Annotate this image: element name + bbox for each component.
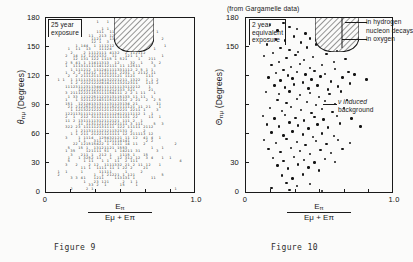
fig9-bin-count: 1	[164, 45, 166, 48]
fig10-data-point	[321, 64, 323, 66]
fig10-ytick-0: 0	[213, 187, 239, 196]
fig9-ytick-30: 30	[14, 158, 40, 167]
fig10-data-point	[288, 49, 290, 51]
fig10-data-point	[296, 141, 298, 143]
fig10-data-point	[341, 148, 343, 150]
fig9-bin-count: 1	[107, 181, 109, 184]
fig9-bin-count: 1	[151, 116, 153, 119]
fig9-bin-count: 2	[135, 137, 137, 140]
fig10-data-point	[324, 158, 326, 160]
fig10-y-subscript: πμ	[218, 111, 224, 119]
fig10-data-point	[284, 86, 286, 88]
fig9-bin-count: 1	[135, 143, 137, 146]
fig9-bin-count: 1	[169, 157, 171, 160]
fig10-data-point	[312, 56, 314, 58]
fig9-bin-count: 3	[161, 123, 163, 126]
fig9-bin-count: 2	[76, 164, 78, 167]
fig9-bin-count: 1	[154, 58, 156, 61]
fig10-data-point	[293, 156, 295, 158]
fig10-leader-oxygen	[342, 39, 367, 40]
fig9-bin-count: 2	[141, 171, 143, 174]
fig9-bin-count: 1	[161, 147, 163, 150]
fig9-bin-count: 1	[174, 188, 176, 191]
fig9-bin-count: 2	[117, 52, 119, 55]
fig9-bin-count: 2	[138, 79, 140, 82]
fig10-data-point	[318, 169, 320, 171]
fig9-bin-count: 3	[104, 35, 106, 38]
fig10-data-point	[322, 118, 324, 120]
fig10-data-point	[303, 119, 305, 121]
fig10-data-point	[353, 73, 355, 75]
fig10-data-point	[316, 84, 318, 86]
fig9-bin-count: 3	[70, 177, 72, 180]
fig9-x-numerator: Eπ	[88, 203, 152, 211]
fig10-data-point	[309, 183, 311, 185]
fig10-data-point	[276, 99, 278, 101]
fig9-bin-count: 1	[68, 96, 70, 99]
fig9-bin-count: 2	[135, 116, 137, 119]
fig9-bin-count: 2	[70, 126, 72, 129]
fig9-bin-count: 5	[73, 150, 75, 153]
fig10-callout-nucleon-decays: nucleon decays	[366, 27, 413, 35]
fig10-data-point	[313, 161, 315, 163]
fig10-data-point	[341, 76, 343, 78]
fig10-data-point	[333, 61, 335, 63]
fig9-bin-count: 1	[83, 167, 85, 170]
fig9-bin-count: 2	[143, 143, 145, 146]
fig10-ytick-30: 30	[213, 158, 239, 167]
fig10-data-point	[313, 70, 315, 72]
fig10-data-point	[318, 96, 320, 98]
fig10-data-point	[307, 166, 309, 168]
fig10-data-point	[321, 190, 323, 192]
fig10-data-point	[303, 159, 305, 161]
fig10-data-point	[313, 116, 315, 118]
fig9-bin-count: 2	[57, 174, 59, 177]
fig9-bin-count: 3	[156, 109, 158, 112]
fig10-leader-hydrogen	[345, 22, 367, 23]
fig9-bin-count: 1	[63, 79, 65, 82]
fig10-data-point	[293, 83, 295, 85]
fig10-data-point	[321, 108, 323, 110]
fig9-bin-count: 2	[151, 140, 153, 143]
fig10-data-point	[334, 68, 336, 70]
fig10-data-point	[316, 123, 318, 125]
fig10-data-point	[302, 81, 304, 83]
fig10-data-point	[302, 133, 304, 135]
fig9-bin-count: 5	[68, 160, 70, 163]
fig10-y-units: (Degrees)	[214, 69, 224, 109]
fig9-bin-count: 3	[112, 38, 114, 41]
fig10-x-numerator: Eπ	[287, 203, 351, 211]
fig9-bin-count: 1	[154, 92, 156, 95]
fig9-bin-count: 1	[156, 31, 158, 34]
fig10-data-point	[275, 38, 277, 40]
fig9-bin-count: 1	[154, 48, 156, 51]
fig10-data-point	[309, 92, 311, 94]
fig9-bin-count: 5	[81, 147, 83, 150]
fig10-data-point	[315, 104, 317, 106]
fig9-bin-count: 1	[138, 126, 140, 129]
fig9-bin-count: 1	[65, 65, 67, 68]
fig10-data-point	[282, 22, 284, 24]
fig9-y-symbol: θ	[16, 120, 26, 125]
fig10-data-point	[334, 161, 336, 163]
fig10-data-point	[310, 112, 312, 114]
fig9-bin-count: 1	[65, 150, 67, 153]
fig10-data-point	[287, 74, 289, 76]
fig10-data-point	[282, 69, 284, 71]
fig9-bin-count: 3	[154, 65, 156, 68]
figure-9-panel: 180 150 120 90 60 30 0 θπμ (Degrees) 0 1…	[0, 0, 205, 262]
fig9-bin-count: 2	[133, 164, 135, 167]
fig10-data-point	[309, 37, 311, 39]
fig10-data-point	[350, 117, 352, 119]
fig9-bin-count: 4	[151, 157, 153, 160]
figure-10-panel: (from Gargamelle data) 180 150 30 0 Θπμ …	[205, 0, 405, 262]
fig9-bin-count: 1	[125, 58, 127, 61]
fig9-caption: Figure 9	[54, 243, 96, 252]
fig9-bin-count: 2	[161, 38, 163, 41]
fig9-ytick-180: 180	[14, 13, 40, 22]
fig10-leader-background	[323, 104, 337, 105]
fig10-data-point	[296, 28, 298, 30]
fig9-digit-cloud: 1111111111112131211211321213114411112121…	[45, 17, 195, 193]
fig10-data-point	[288, 26, 290, 28]
